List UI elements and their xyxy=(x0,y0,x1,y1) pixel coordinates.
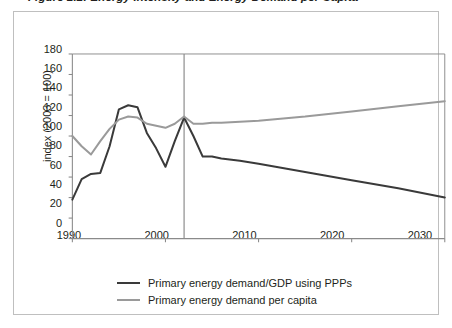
legend-label-series-2: Primary energy demand per capita xyxy=(148,294,317,306)
y-axis-tick-180: 180 xyxy=(28,44,62,55)
y-axis-tick-80: 80 xyxy=(28,140,62,151)
x-axis-tick-2000: 2000 xyxy=(132,230,182,241)
chart-frame: index (2003 = 100) 020406080100120140160… xyxy=(13,11,439,315)
y-axis-tick-140: 140 xyxy=(28,82,62,93)
y-axis-tick-40: 40 xyxy=(28,179,62,190)
y-axis-tick-120: 120 xyxy=(28,102,62,113)
y-axis-tick-60: 60 xyxy=(28,160,62,171)
x-axis-tick-2010: 2010 xyxy=(220,230,270,241)
x-axis-tick-2020: 2020 xyxy=(307,230,357,241)
legend-swatch-series-2 xyxy=(117,299,140,301)
legend-label-series-1: Primary energy demand/GDP using PPPs xyxy=(148,277,352,289)
y-axis-tick-20: 20 xyxy=(28,198,62,209)
legend-item-primary-energy-demand-gdp: Primary energy demand/GDP using PPPs xyxy=(117,274,417,291)
figure-container: Figure 2.2: Energy Intensity and Energy … xyxy=(0,0,452,328)
y-axis-tick-0: 0 xyxy=(28,218,62,229)
legend-item-primary-energy-demand-per-capita: Primary energy demand per capita xyxy=(117,291,417,308)
chart-legend: Primary energy demand/GDP using PPPs Pri… xyxy=(117,274,417,308)
y-axis-tick-100: 100 xyxy=(28,121,62,132)
x-axis-tick-2030: 2030 xyxy=(395,230,445,241)
x-axis-tick-1990: 1990 xyxy=(44,230,94,241)
legend-swatch-series-1 xyxy=(117,282,140,284)
figure-title: Figure 2.2: Energy Intensity and Energy … xyxy=(28,0,358,3)
y-axis-tick-160: 160 xyxy=(28,63,62,74)
y-axis-label: index (2003 = 100) xyxy=(41,36,53,196)
